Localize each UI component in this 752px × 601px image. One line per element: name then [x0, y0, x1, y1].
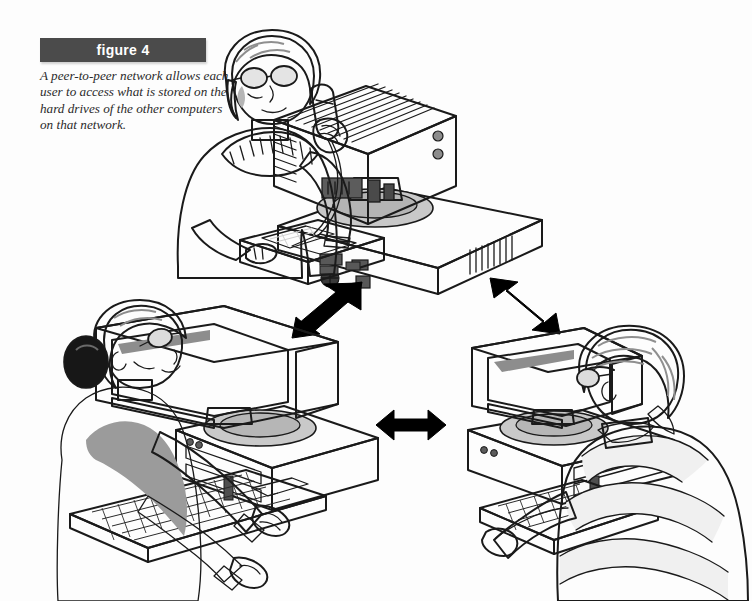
figure-page: figure 4 A peer-to-peer network allows e…: [0, 0, 752, 601]
node-bottom-right-workstation: [462, 326, 752, 601]
person-woman-on-telephone: [178, 30, 351, 278]
telephone-base[interactable]: [240, 220, 384, 284]
double-headed-arrow-horizontal: [376, 410, 446, 440]
figure-label-text: figure 4: [97, 42, 150, 58]
node-bottom-left-workstation: [56, 300, 386, 601]
crt-monitor-front-bottom-right: [472, 328, 642, 445]
eyeglasses-icon: [577, 367, 614, 387]
node-top-workstation: [170, 28, 570, 293]
crt-monitor-rear: [274, 84, 456, 227]
